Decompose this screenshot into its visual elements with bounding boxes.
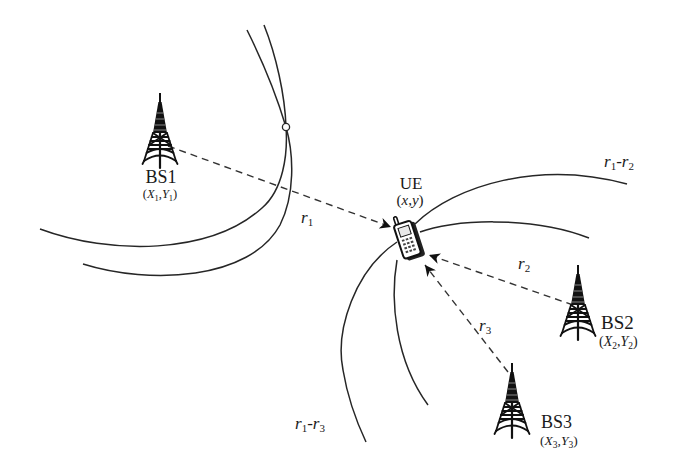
range-label-r1: r1 — [301, 208, 313, 228]
tdoa-diagram: BS1 (X1,Y1) BS2 (X2,Y2) BS3 (X3,Y3) UE (… — [0, 0, 686, 471]
hyperbola-label-r1-r3: r1-r3 — [295, 414, 325, 434]
intersection-marker — [282, 123, 289, 130]
bs1-coordinates: (X1,Y1) — [143, 187, 178, 203]
range-line-bs1 — [168, 146, 391, 227]
range-label-r3: r3 — [479, 316, 492, 336]
bs3-label: BS3 — [541, 412, 572, 432]
bs2-label: BS2 — [601, 312, 634, 333]
hyperbola-r1-r3-left — [341, 242, 397, 442]
radio-tower-icon — [495, 363, 530, 438]
hyperbola-r1-r2-lower — [420, 222, 589, 238]
bs1-label: BS1 — [145, 167, 176, 187]
range-label-r2: r2 — [518, 254, 530, 274]
ue-label: UE — [400, 174, 423, 193]
ue-coordinates: (x,y) — [396, 192, 423, 209]
bs3-coordinates: (X3,Y3) — [540, 433, 578, 450]
range-arc-outer — [83, 30, 292, 275]
hyperbola-r1-r2-upper — [415, 175, 627, 224]
range-line-bs2 — [429, 255, 573, 305]
hyperbola-r1-r3-right — [394, 260, 428, 405]
diagram-svg: BS1 (X1,Y1) BS2 (X2,Y2) BS3 (X3,Y3) UE (… — [0, 0, 686, 471]
radio-tower-icon — [561, 265, 596, 340]
hyperbola-label-r1-r2: r1-r2 — [604, 152, 634, 172]
range-line-bs3 — [425, 265, 508, 372]
bs2-coordinates: (X2,Y2) — [599, 334, 638, 351]
radio-tower-icon — [143, 93, 178, 168]
